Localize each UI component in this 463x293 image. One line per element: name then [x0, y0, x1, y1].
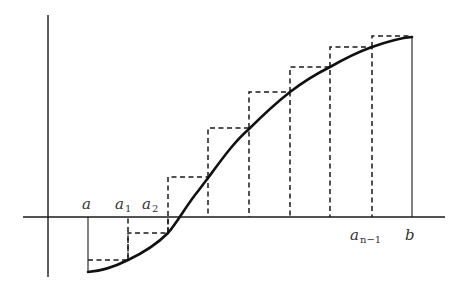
step-1	[88, 217, 128, 260]
label-a2: a2	[142, 195, 158, 214]
step-4	[208, 128, 249, 217]
label-a-n-minus-1: an−1	[350, 226, 381, 245]
step-rectangles	[88, 36, 412, 260]
label-a1: a1	[115, 195, 131, 214]
label-a: a	[82, 195, 91, 213]
step-function-diagram: a a1 a2 an−1 b	[0, 0, 463, 293]
label-b: b	[405, 226, 415, 244]
step-6	[290, 67, 330, 217]
step-7	[330, 47, 372, 217]
